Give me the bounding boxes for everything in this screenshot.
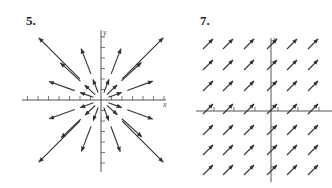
vector-arrow [93, 79, 98, 92]
vector-arrow [223, 60, 233, 70]
x-axis-label: x [162, 100, 167, 109]
vector-arrow [267, 81, 277, 91]
vector-arrow [308, 125, 318, 135]
vector-arrow [122, 119, 142, 137]
vector-arrow [287, 39, 297, 49]
vector-arrow [223, 125, 233, 135]
vector-arrow [61, 119, 81, 138]
vector-arrow [85, 85, 95, 94]
vector-arrow [308, 60, 318, 70]
vector-arrow [80, 93, 93, 98]
vector-arrow [49, 82, 74, 91]
vector-arrow [203, 81, 213, 91]
vector-arrow [287, 104, 297, 114]
vector-arrow [107, 105, 117, 114]
figure-7-plot: y [196, 35, 332, 182]
vector-arrow [81, 49, 91, 74]
vector-arrow [104, 107, 109, 120]
vector-arrow [203, 39, 213, 49]
vector-arrow [203, 145, 213, 155]
vector-arrow [267, 60, 277, 70]
vector-arrow [308, 145, 318, 155]
vector-arrow [308, 81, 318, 91]
vector-arrow [203, 104, 213, 114]
vector-arrow [107, 85, 117, 95]
vector-arrow [244, 165, 254, 175]
vector-arrow [93, 107, 98, 120]
vector-arrow [287, 81, 297, 91]
vector-arrow [223, 165, 233, 175]
vector-arrow [223, 104, 233, 114]
vector-arrow [308, 39, 318, 49]
vector-arrow [244, 104, 254, 114]
vector-arrow [122, 121, 163, 162]
vector-arrow [223, 39, 233, 49]
vector-arrow [244, 60, 254, 70]
vector-arrow [244, 81, 254, 91]
vector-arrow [121, 63, 141, 81]
vector-arrow [267, 165, 277, 175]
figure-5-plot: y x [22, 28, 167, 172]
vector-arrow [267, 39, 277, 49]
vector-arrow [111, 49, 121, 74]
vector-arrow [223, 81, 233, 91]
vector-arrow [127, 110, 152, 119]
vector-arrow [287, 125, 297, 135]
vector-arrow [287, 165, 297, 175]
vector-arrow [267, 125, 277, 135]
vector-field-figures: y x y [0, 0, 332, 188]
vector-arrow [203, 165, 213, 175]
vector-arrow [49, 110, 74, 119]
vector-arrow [267, 104, 277, 114]
vector-arrow [244, 145, 254, 155]
vector-arrow [244, 125, 254, 135]
vector-arrow [203, 60, 213, 70]
vector-arrow [82, 126, 92, 151]
vector-arrow [39, 121, 80, 162]
vector-arrow [80, 103, 93, 108]
vector-arrow [223, 145, 233, 155]
vector-arrow [109, 103, 122, 108]
vector-arrow [308, 104, 318, 114]
vector-arrow [127, 81, 152, 90]
vector-arrow [244, 39, 254, 49]
vector-arrow [122, 38, 163, 79]
vector-arrow [267, 145, 277, 155]
y-axis-label: y [102, 28, 107, 37]
vector-arrow [287, 145, 297, 155]
vector-arrow [39, 38, 80, 79]
vector-arrow [287, 60, 297, 70]
vector-arrow [203, 125, 213, 135]
vector-arrow [109, 92, 122, 97]
vector-arrow [111, 126, 120, 151]
vector-arrow [104, 79, 109, 92]
vector-arrow [85, 106, 95, 116]
vector-arrow [60, 63, 80, 81]
vector-arrow [308, 165, 318, 175]
